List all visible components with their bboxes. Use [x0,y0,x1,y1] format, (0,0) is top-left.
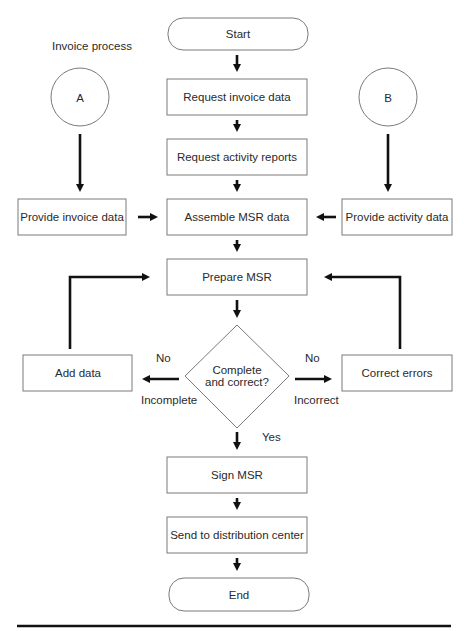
correct-errors-step: Correct errors [342,355,452,391]
prepare-msr-label: Prepare MSR [202,271,272,283]
end-terminator: End [169,578,309,611]
sign-msr-label: Sign MSR [211,469,263,481]
connector-a: A [51,68,109,126]
arrow-add-data-to-prepare [70,277,146,349]
send-to-distribution-center-label: Send to distribution center [170,529,304,541]
request-invoice-data-label: Request invoice data [183,91,291,103]
sign-msr-step: Sign MSR [167,457,307,493]
assemble-msr-data-label: Assemble MSR data [185,211,290,223]
edge-label-yes: Yes [262,431,281,443]
edge-label-incorrect: Incorrect [294,394,340,406]
connector-a-label: A [76,92,84,104]
flowchart-canvas: Invoice process Start Request invoice da… [0,0,468,631]
add-data-label: Add data [55,367,102,379]
decision-label-line1: Complete [212,364,261,376]
connector-b-label: B [384,92,392,104]
request-activity-reports-step: Request activity reports [167,139,307,175]
edge-label-right-no: No [305,352,320,364]
provide-activity-data-step: Provide activity data [342,199,452,235]
provide-activity-data-label: Provide activity data [346,211,450,223]
start-label: Start [226,28,251,40]
correct-errors-label: Correct errors [362,367,433,379]
edge-label-left-no: No [156,352,171,364]
diagram-title: Invoice process [52,40,132,52]
request-activity-reports-label: Request activity reports [177,151,297,163]
request-invoice-data-step: Request invoice data [167,79,307,115]
provide-invoice-data-label: Provide invoice data [20,211,124,223]
add-data-step: Add data [23,355,132,391]
assemble-msr-data-step: Assemble MSR data [167,199,307,235]
connector-b: B [359,68,417,126]
send-to-distribution-center-step: Send to distribution center [167,517,307,553]
start-terminator: Start [168,18,308,50]
complete-and-correct-decision: Complete and correct? [185,325,289,428]
decision-label-line2: and correct? [205,376,269,388]
prepare-msr-step: Prepare MSR [167,259,307,295]
arrow-correct-errors-to-prepare [328,277,400,349]
provide-invoice-data-step: Provide invoice data [18,199,126,235]
end-label: End [229,589,249,601]
edge-label-incomplete: Incomplete [141,394,197,406]
